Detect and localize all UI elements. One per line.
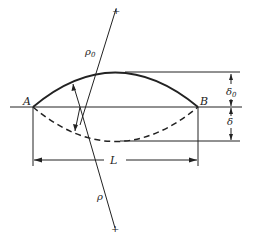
length-arrow-left [34, 158, 42, 163]
lower-dashed-arc [33, 107, 198, 142]
label-point-b: B [199, 95, 208, 108]
center-mark-bottom: + [111, 223, 119, 234]
label-delta: δ [227, 116, 233, 127]
label-length: L [109, 154, 117, 167]
delta0-arrow-down [229, 100, 233, 106]
label-rho0: ρ0 [84, 46, 96, 59]
rho0-radius-line [80, 9, 116, 125]
length-arrow-right [189, 158, 197, 163]
beam-curvature-diagram: + + A B L ρ0 ρ δ0 δ [0, 0, 253, 238]
delta-arrow-down [229, 134, 233, 140]
label-point-a: A [22, 95, 31, 108]
center-mark-top: + [112, 5, 120, 16]
label-rho: ρ [96, 191, 103, 202]
upper-arc [33, 73, 198, 108]
rho-radius-line [80, 107, 115, 228]
delta-arrow-up [229, 108, 233, 114]
delta0-arrow-up [229, 74, 233, 80]
label-delta0: δ0 [226, 86, 237, 99]
curvature-arrow-down [73, 124, 78, 131]
